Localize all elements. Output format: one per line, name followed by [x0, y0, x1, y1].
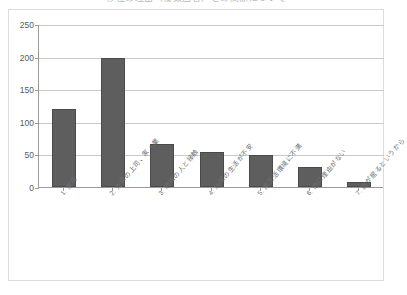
y-axis-labels: 050100150200250	[6, 25, 34, 188]
y-tick-mark	[35, 123, 39, 124]
x-axis-labels: 1. 家庭2. 先輩の上司、家・業3. 地域の人と接触4. 地域の生活が不安5.…	[38, 192, 384, 272]
gridline	[39, 123, 384, 124]
gridline	[39, 90, 384, 91]
y-tick-label: 0	[8, 184, 34, 193]
y-tick-mark	[35, 90, 39, 91]
chart-title: 移住の理由（複数回答）との関係について	[0, 0, 393, 2]
y-tick-mark	[35, 25, 39, 26]
y-tick-mark	[35, 58, 39, 59]
y-tick-label: 50	[8, 151, 34, 160]
gridline	[39, 58, 384, 59]
gridline	[39, 25, 384, 26]
y-tick-label: 150	[8, 86, 34, 95]
y-tick-label: 250	[8, 21, 34, 30]
y-tick-mark	[35, 155, 39, 156]
y-tick-label: 200	[8, 54, 34, 63]
y-tick-label: 100	[8, 119, 34, 128]
bar	[101, 58, 125, 187]
